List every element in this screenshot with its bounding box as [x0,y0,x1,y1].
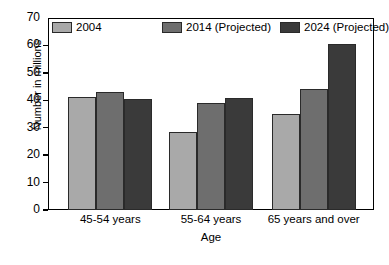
x-axis-labels: 45-54 years55-64 years65 years and over [48,213,374,231]
bar [272,114,300,210]
bar-group [68,18,152,210]
legend-label: 2024 (Projected) [304,21,389,33]
y-tick-label: 60 [27,37,40,51]
y-tick-label: 70 [27,10,40,24]
legend-label: 2014 (Projected) [186,21,271,33]
legend-item: 2014 (Projected) [162,21,271,33]
y-tick-label: 20 [27,147,40,161]
y-tick-label: 10 [27,175,40,189]
legend-swatch-icon [52,22,72,33]
bar [300,89,328,210]
bar [169,132,197,210]
bars-layer [48,18,374,210]
y-tick-label: 30 [27,120,40,134]
legend-swatch-icon [162,22,182,33]
y-tick-label: 40 [27,92,40,106]
bar-group [272,18,356,210]
legend-item: 2024 (Projected) [280,21,389,33]
legend-label: 2004 [76,21,102,33]
y-axis-ticks: 010203040506070 [0,0,48,265]
x-axis-label: 65 years and over [244,213,384,225]
bar [124,99,152,210]
bar [328,44,356,210]
chart-legend: 20042014 (Projected)2024 (Projected) [52,21,370,37]
legend-swatch-icon [280,22,300,33]
bar [197,103,225,210]
bar-group [169,18,253,210]
x-axis-title: Age [48,231,374,243]
bar [225,98,253,210]
legend-item: 2004 [52,21,102,33]
bar [96,92,124,210]
bar [68,97,96,210]
y-tick-label: 0 [33,202,40,216]
y-tick-label: 50 [27,65,40,79]
